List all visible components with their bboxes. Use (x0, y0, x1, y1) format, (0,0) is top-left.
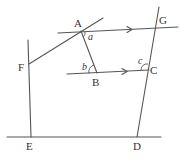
label-D: D (133, 140, 141, 152)
angle-arc-a (83, 32, 85, 37)
label-A: A (74, 17, 82, 29)
label-F: F (18, 61, 24, 73)
label-E: E (26, 140, 33, 152)
label-C: C (150, 64, 157, 76)
angle-label-b: b (82, 61, 87, 72)
geometry-diagram: A B C D E F G a b c (0, 0, 188, 161)
angle-label-c: c (138, 55, 143, 66)
line-FE (28, 40, 31, 137)
angle-label-a: a (88, 31, 93, 42)
label-B: B (92, 76, 99, 88)
line-lower-parallel (67, 70, 149, 74)
label-G: G (159, 14, 167, 26)
